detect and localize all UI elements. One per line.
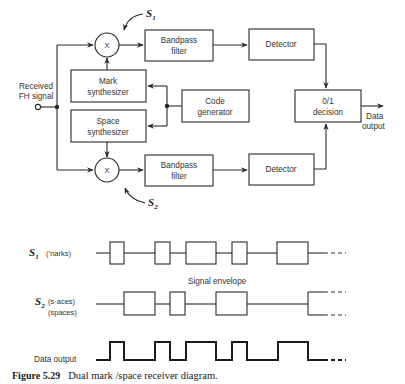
caption-text: Dual mark /space receiver diagram.: [68, 370, 218, 381]
svg-text:Bandpass: Bandpass: [161, 161, 197, 170]
svg-text:synthesizer: synthesizer: [87, 128, 129, 137]
input-terminal: [35, 45, 93, 170]
svg-text:Detector: Detector: [266, 40, 297, 49]
output-label-line1: Data: [366, 112, 384, 121]
svg-text:Bandpass: Bandpass: [161, 36, 197, 45]
signal-envelope-label: Signal envelope: [188, 277, 247, 286]
svg-text:S2: S2: [148, 196, 158, 211]
svg-text:generator: generator: [197, 108, 232, 117]
receiver-figure: Received FH signal X S1 Bandpass filter …: [0, 0, 405, 384]
input-label-line2: FH signal: [19, 92, 54, 101]
s2-annotation: S2: [125, 188, 158, 211]
timing-diagram: S1 (’narks) Signal envelope S2 (s·aces) …: [29, 242, 346, 364]
data-output-row-label: Data output: [34, 355, 77, 364]
code-generator: Code generator: [182, 90, 249, 122]
detector-top: Detector: [249, 29, 314, 60]
svg-text:S2: S2: [35, 295, 45, 310]
svg-text:0/1: 0/1: [322, 97, 334, 106]
svg-text:Code: Code: [205, 97, 225, 106]
s2-row-desc-1: (s·aces): [48, 297, 76, 306]
svg-text:Figure 5.29Dual mark /space re: Figure 5.29Dual mark /space receiver dia…: [12, 370, 218, 381]
s2-spaces-waveform: [96, 292, 346, 315]
detector-bottom: Detector: [249, 154, 314, 185]
s1-annotation: S1: [124, 7, 156, 30]
figure-number: Figure 5.29: [12, 370, 60, 381]
svg-text:S1: S1: [146, 7, 156, 22]
s1-marks-waveform: [96, 242, 346, 264]
svg-text:Detector: Detector: [266, 165, 297, 174]
s2-row-desc-2: (spaces): [48, 308, 77, 317]
mixer-top-symbol: X: [104, 41, 109, 50]
svg-text:filter: filter: [171, 172, 187, 181]
svg-text:synthesizer: synthesizer: [87, 88, 129, 97]
block-diagram: Received FH signal X S1 Bandpass filter …: [19, 7, 386, 211]
s1-row-desc: (’narks): [46, 249, 72, 258]
output-label-line2: output: [362, 122, 385, 131]
bandpass-filter-top: Bandpass filter: [145, 30, 213, 61]
mark-synthesizer: Mark synthesizer: [71, 70, 146, 102]
input-label-line1: Received: [19, 82, 54, 91]
code-bus: [148, 86, 182, 126]
figure-caption: Figure 5.29Dual mark /space receiver dia…: [12, 370, 218, 381]
svg-text:Space: Space: [96, 117, 120, 126]
data-output-waveform: [96, 342, 346, 360]
mixer-bottom-symbol: X: [104, 166, 109, 175]
mixer-bottom: X: [95, 158, 119, 182]
bandpass-filter-bottom: Bandpass filter: [145, 155, 213, 186]
svg-text:filter: filter: [171, 47, 187, 56]
decision-block: 0/1 decision: [295, 90, 361, 122]
space-synthesizer: Space synthesizer: [71, 110, 146, 142]
svg-text:decision: decision: [313, 108, 343, 117]
mixer-top: X: [95, 33, 119, 57]
svg-text:Mark: Mark: [99, 77, 118, 86]
svg-text:S1: S1: [29, 246, 39, 261]
